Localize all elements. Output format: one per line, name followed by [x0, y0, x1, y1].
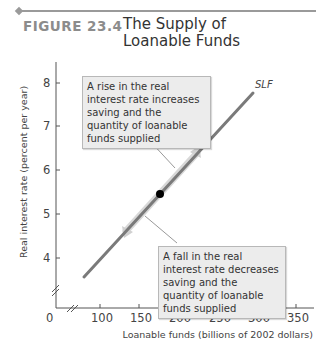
svg-text:7: 7: [43, 119, 50, 133]
svg-text:6: 6: [43, 163, 50, 177]
y-axis-title: Real interest rate (percent per year): [18, 86, 29, 258]
svg-text:5: 5: [43, 207, 50, 221]
x-axis-title: Loanable funds (billions of 2002 dollars…: [123, 329, 314, 340]
svg-text:0: 0: [46, 311, 53, 325]
highlight-point: [156, 190, 164, 198]
slf-label: SLF: [255, 79, 273, 90]
fall-callout-pointer: [145, 216, 177, 243]
svg-text:350: 350: [287, 311, 309, 325]
y-ticks: [56, 83, 60, 258]
rise-callout: A rise in the real interest rate increas…: [82, 76, 211, 149]
svg-text:100: 100: [91, 311, 113, 325]
svg-text:8: 8: [43, 76, 50, 90]
svg-text:150: 150: [130, 311, 152, 325]
fall-callout: A fall in the real interest rate decreas…: [158, 246, 286, 319]
svg-text:4: 4: [43, 251, 50, 265]
y-tick-labels: 8 7 6 5 4: [43, 76, 50, 265]
